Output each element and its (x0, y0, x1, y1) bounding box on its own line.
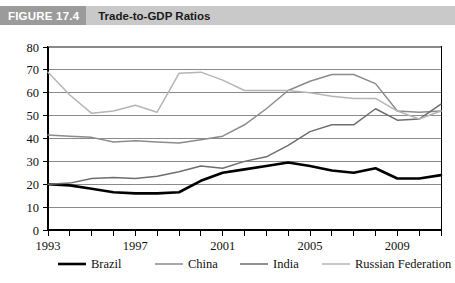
figure-header-band: FIGURE 17.4 Trade-to-GDP Ratios (0, 6, 455, 25)
data-series (48, 72, 441, 193)
y-tick-label: 60 (27, 86, 40, 100)
y-tick-label: 20 (27, 178, 40, 192)
gridlines (48, 47, 441, 207)
y-axis-tick-labels: 01020304050607080 (27, 41, 40, 238)
figure-title: Trade-to-GDP Ratios (98, 10, 210, 22)
legend-label-india: India (273, 257, 299, 271)
figure-container: FIGURE 17.4 Trade-to-GDP Ratios 01020304… (0, 0, 455, 283)
legend-label-russian-federation: Russian Federation (355, 257, 452, 271)
y-tick-label: 80 (27, 41, 40, 55)
y-tick-label: 0 (33, 224, 39, 238)
chart-legend: BrazilChinaIndiaRussian Federation (58, 257, 452, 271)
x-tick-label: 2009 (385, 239, 410, 253)
figure-number-tag: FIGURE 17.4 (0, 6, 86, 25)
series-line-china (48, 74, 441, 143)
y-tick-label: 50 (27, 109, 40, 123)
chart-plot-area: 01020304050607080 19931997200120052009 B… (0, 25, 455, 283)
y-tick-label: 10 (27, 201, 40, 215)
x-tick-label: 2001 (210, 239, 235, 253)
y-tick-label: 40 (27, 132, 40, 146)
legend-label-brazil: Brazil (91, 257, 122, 271)
x-tick-label: 2005 (298, 239, 323, 253)
y-tick-label: 30 (27, 155, 40, 169)
x-tick-label: 1993 (36, 239, 61, 253)
legend-label-china: China (188, 257, 218, 271)
x-axis-ticks (48, 230, 441, 236)
x-tick-label: 1997 (123, 239, 148, 253)
y-axis-ticks (43, 47, 48, 230)
x-axis-tick-labels: 19931997200120052009 (36, 239, 410, 253)
y-tick-label: 70 (27, 63, 40, 77)
trade-to-gdp-line-chart: 01020304050607080 19931997200120052009 B… (0, 25, 455, 283)
